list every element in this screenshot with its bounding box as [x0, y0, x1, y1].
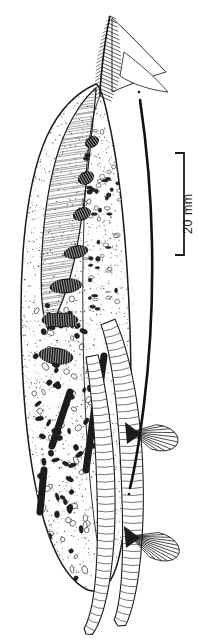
- specimen-illustration: [0, 0, 198, 639]
- figure-root: 20 mm: [0, 0, 198, 639]
- seta-tip-dot-lower: [128, 493, 131, 496]
- body-segment-bar: [40, 470, 44, 512]
- scale-bar-label: 20 mm: [182, 193, 195, 234]
- seta-tip-dot-upper: [138, 91, 141, 94]
- body-segment-blotch: [42, 313, 78, 327]
